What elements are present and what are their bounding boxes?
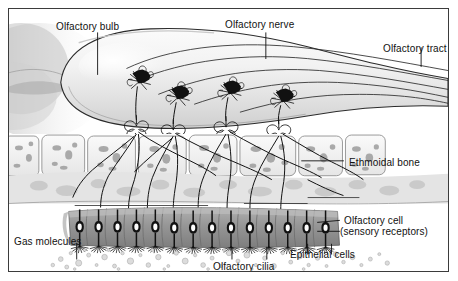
label-olfactory-tract: Olfactory tract [383,43,447,55]
olfactory-system-figure: Olfactory bulb Olfactory nerve Olfactory… [0,0,458,281]
label-ethmoidal-bone: Ethmoidal bone [349,157,420,169]
label-epithelial-cells: Epithelial cells [290,249,355,261]
label-olfactory-nerve: Olfactory nerve [225,19,294,31]
label-sensory-receptors: (sensory receptors) [340,226,428,238]
label-olfactory-cilia: Olfactory cilia [213,261,275,272]
figure-frame: Olfactory bulb Olfactory nerve Olfactory… [8,8,449,272]
olfactory-epithelium [63,207,340,247]
label-olfactory-cell: Olfactory cell [344,215,403,227]
label-gas-molecules: Gas molecules [14,236,81,248]
label-olfactory-bulb: Olfactory bulb [56,21,119,33]
